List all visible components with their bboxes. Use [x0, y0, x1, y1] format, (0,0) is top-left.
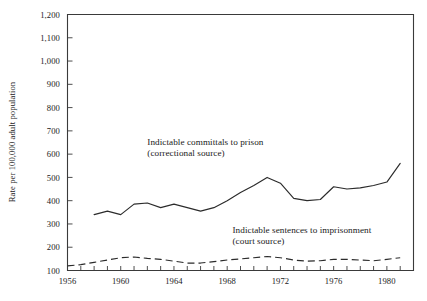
x-tick-label: 1968 [218, 276, 236, 286]
annotation-court-line2: (court source) [233, 236, 285, 246]
annotation-correctional-line2: (correctional source) [147, 148, 224, 158]
y-tick-label: 1,200 [40, 10, 60, 20]
y-tick-label: 100 [47, 266, 60, 276]
x-tick-label: 1960 [112, 276, 130, 286]
y-axis-title: Rate per 100,000 adult population [7, 81, 17, 202]
x-tick-label: 1956 [59, 276, 77, 286]
y-tick-label: 500 [47, 173, 60, 183]
x-axis-tick-labels: 1956196019641968197219761980 [59, 276, 396, 286]
y-tick-label: 800 [47, 103, 60, 113]
series-line-correctional [94, 163, 400, 214]
y-tick-label: 600 [47, 149, 60, 159]
y-tick-label: 900 [47, 79, 60, 89]
annotation-court: Indictable sentences to imprisonment (co… [233, 225, 372, 246]
annotation-correctional: Indictable committals to prison (correct… [147, 137, 263, 158]
x-tick-label: 1980 [378, 276, 396, 286]
y-tick-label: 1,100 [40, 33, 60, 43]
y-tick-label: 700 [47, 126, 60, 136]
line-chart: 1002003004005006007008009001,0001,1001,2… [0, 0, 427, 301]
y-axis-title-text: Rate per 100,000 adult population [7, 81, 17, 202]
x-tick-label: 1964 [165, 276, 183, 286]
annotation-correctional-line1: Indictable committals to prison [147, 137, 263, 147]
y-axis-ticks [68, 15, 73, 271]
data-series-group [68, 163, 401, 265]
y-tick-label: 300 [47, 219, 60, 229]
series-line-court [68, 257, 401, 266]
x-tick-label: 1972 [272, 276, 290, 286]
chart-figure: 1002003004005006007008009001,0001,1001,2… [0, 0, 427, 301]
y-tick-label: 1,000 [40, 56, 60, 66]
annotation-court-line1: Indictable sentences to imprisonment [233, 225, 372, 235]
x-axis-ticks [68, 266, 414, 271]
y-tick-label: 400 [47, 196, 60, 206]
y-axis-tick-labels: 1002003004005006007008009001,0001,1001,2… [40, 10, 60, 276]
y-tick-label: 200 [47, 242, 60, 252]
x-tick-label: 1976 [325, 276, 343, 286]
